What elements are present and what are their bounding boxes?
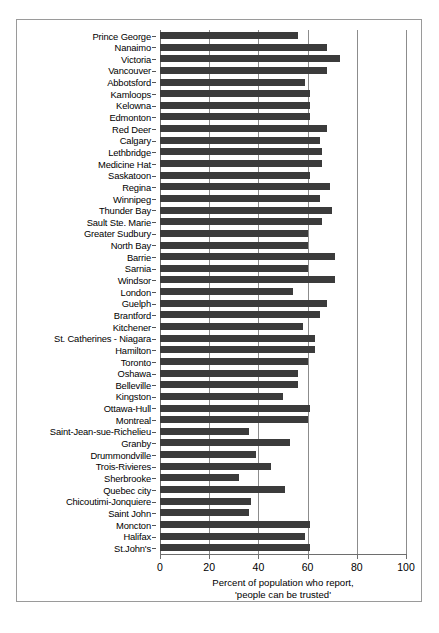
bar <box>160 370 298 377</box>
bar-row <box>160 496 406 508</box>
category-tick <box>152 59 156 60</box>
bar-row <box>160 111 406 123</box>
category-tick <box>152 455 156 456</box>
bar <box>160 393 283 400</box>
category-tick <box>152 280 156 281</box>
bar <box>160 300 327 307</box>
bar <box>160 32 298 39</box>
bar-row <box>160 333 406 345</box>
bar-row <box>160 123 406 135</box>
category-tick <box>152 117 156 118</box>
category-tick <box>152 420 156 421</box>
bar-row <box>160 379 406 391</box>
category-axis-labels: Prince GeorgeNanaimoVictoriaVancouverAbb… <box>17 30 156 554</box>
category-tick <box>152 257 156 258</box>
bar <box>160 533 305 540</box>
bar <box>160 521 310 528</box>
bar <box>160 416 308 423</box>
category-tick <box>152 443 156 444</box>
category-tick <box>152 467 156 468</box>
category-tick <box>152 94 156 95</box>
x-axis-title: Percent of population who report,'people… <box>160 577 406 601</box>
x-tick-100 <box>406 554 407 559</box>
bar <box>160 207 332 214</box>
bar <box>160 230 308 237</box>
category-tick <box>152 199 156 200</box>
category-tick <box>152 339 156 340</box>
bar-row <box>160 391 406 403</box>
category-tick <box>152 525 156 526</box>
x-tick-label-100: 100 <box>397 561 415 573</box>
bar-row <box>160 30 406 42</box>
category-tick <box>152 129 156 130</box>
bar <box>160 172 310 179</box>
bar <box>160 242 308 249</box>
bar-row <box>160 437 406 449</box>
bar-row <box>160 193 406 205</box>
bar <box>160 102 310 109</box>
bar-row <box>160 181 406 193</box>
category-tick <box>152 513 156 514</box>
x-tick-label-40: 40 <box>253 561 265 573</box>
category-tick <box>152 106 156 107</box>
bar <box>160 405 310 412</box>
x-tick-40 <box>258 554 259 559</box>
bar <box>160 346 315 353</box>
bar <box>160 498 251 505</box>
x-axis-title-line-2: 'people can be trusted' <box>160 589 406 601</box>
bar-row <box>160 403 406 415</box>
category-label: St.John's <box>114 542 151 555</box>
x-tick-80 <box>357 554 358 559</box>
category-tick <box>152 269 156 270</box>
bar <box>160 311 320 318</box>
category-tick <box>152 222 156 223</box>
category-tick <box>152 385 156 386</box>
bar-row <box>160 344 406 356</box>
x-axis-title-line-1: Percent of population who report, <box>160 577 406 589</box>
bar-row <box>160 461 406 473</box>
bar <box>160 335 315 342</box>
bar <box>160 195 320 202</box>
bar-row <box>160 100 406 112</box>
category-tick <box>152 350 156 351</box>
bar-row <box>160 170 406 182</box>
bar-row <box>160 356 406 368</box>
bar-row <box>160 531 406 543</box>
bar-row <box>160 542 406 554</box>
category-tick <box>152 548 156 549</box>
bar-rows <box>160 30 406 554</box>
bar <box>160 439 290 446</box>
bar-row <box>160 274 406 286</box>
bar-row <box>160 321 406 333</box>
bar-row <box>160 414 406 426</box>
bar-row <box>160 88 406 100</box>
bar-row <box>160 263 406 275</box>
gridline-100 <box>406 30 407 554</box>
bar-row <box>160 309 406 321</box>
category-tick <box>152 152 156 153</box>
bar <box>160 276 335 283</box>
bar-row <box>160 42 406 54</box>
bar <box>160 183 330 190</box>
category-tick <box>152 315 156 316</box>
category-tick <box>152 362 156 363</box>
bar <box>160 428 249 435</box>
bar-row <box>160 298 406 310</box>
category-tick <box>152 141 156 142</box>
category-tick <box>152 36 156 37</box>
category-tick <box>152 176 156 177</box>
category-tick <box>152 47 156 48</box>
bar-row <box>160 507 406 519</box>
cropped-title-remnant <box>0 0 439 14</box>
category-tick <box>152 397 156 398</box>
bar <box>160 137 320 144</box>
category-tick <box>152 234 156 235</box>
bar <box>160 323 303 330</box>
category-tick <box>152 432 156 433</box>
category-tick <box>152 210 156 211</box>
category-tick <box>152 537 156 538</box>
bar <box>160 113 310 120</box>
category-tick <box>152 304 156 305</box>
category-tick <box>152 82 156 83</box>
category-tick <box>152 187 156 188</box>
